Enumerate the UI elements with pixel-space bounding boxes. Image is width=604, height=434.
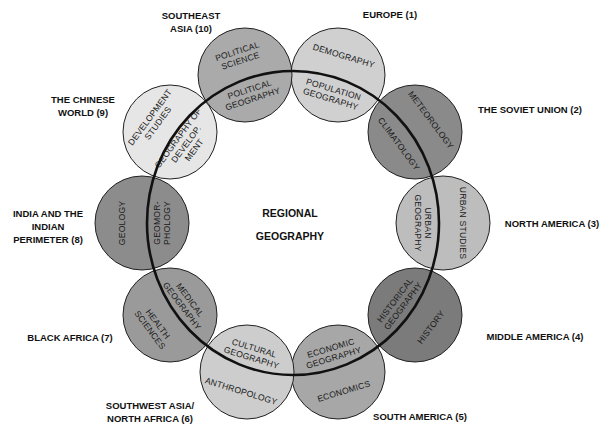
outer-discipline-north-america-line: URBAN STUDIES bbox=[458, 187, 468, 259]
region-label-line: NORTH AFRICA (6) bbox=[107, 413, 193, 424]
region-label-black-africa: BLACK AFRICA (7) bbox=[27, 332, 112, 343]
circle-southeast-asia bbox=[198, 28, 292, 122]
region-label-line: BLACK AFRICA (7) bbox=[27, 332, 112, 343]
region-label-middle-america: MIDDLE AMERICA (4) bbox=[487, 331, 584, 342]
region-label-line: INDIAN bbox=[32, 221, 65, 232]
outer-discipline-india-line: GEOLOGY bbox=[117, 201, 127, 245]
outer-discipline-india: GEOLOGY bbox=[117, 201, 127, 245]
region-label-line: SOUTHWEST ASIA/ bbox=[106, 400, 195, 411]
center-label: REGIONAL GEOGRAPHY bbox=[256, 207, 324, 242]
region-label-line: ASIA (10) bbox=[170, 23, 212, 34]
inner-discipline-north-america-line: URBAN bbox=[423, 207, 433, 238]
region-label-line: SOUTH AMERICA (5) bbox=[373, 411, 467, 422]
region-label-north-america: NORTH AMERICA (3) bbox=[505, 218, 599, 229]
region-label-line: EUROPE (1) bbox=[363, 9, 417, 20]
region-label-soviet: THE SOVIET UNION (2) bbox=[478, 104, 582, 115]
region-label-line: SOUTHEAST bbox=[162, 10, 221, 21]
region-label-europe: EUROPE (1) bbox=[363, 9, 417, 20]
circle-south-america bbox=[291, 325, 385, 419]
region-label-line: WORLD (9) bbox=[58, 107, 108, 118]
inner-discipline-india-line: PHOLOGY bbox=[162, 201, 172, 245]
inner-discipline-india-line: GEOMOR- bbox=[152, 201, 162, 244]
region-label-india: INDIA AND THEINDIANPERIMETER (8) bbox=[13, 208, 83, 245]
circle-swasia bbox=[200, 325, 294, 419]
region-label-line: INDIA AND THE bbox=[13, 208, 83, 219]
center-label-line2: GEOGRAPHY bbox=[256, 230, 324, 242]
inner-discipline-north-america-line: GEOGRAPHY bbox=[413, 194, 423, 251]
region-label-south-america: SOUTH AMERICA (5) bbox=[373, 411, 467, 422]
circle-europe bbox=[291, 28, 385, 122]
circle-india bbox=[95, 176, 189, 270]
region-label-line: THE CHINESE bbox=[51, 94, 115, 105]
circle-north-america bbox=[396, 176, 490, 270]
region-label-line: NORTH AMERICA (3) bbox=[505, 218, 599, 229]
region-label-chinese: THE CHINESEWORLD (9) bbox=[51, 94, 115, 118]
region-label-line: PERIMETER (8) bbox=[13, 234, 83, 245]
outer-discipline-north-america: URBAN STUDIES bbox=[458, 187, 468, 259]
region-label-line: MIDDLE AMERICA (4) bbox=[487, 331, 584, 342]
region-label-swasia: SOUTHWEST ASIA/NORTH AFRICA (6) bbox=[106, 400, 195, 424]
center-label-line1: REGIONAL bbox=[262, 207, 318, 219]
region-label-line: THE SOVIET UNION (2) bbox=[478, 104, 582, 115]
region-label-southeast-asia: SOUTHEASTASIA (10) bbox=[162, 10, 221, 34]
inner-discipline-india: GEOMOR-PHOLOGY bbox=[152, 201, 172, 245]
regional-geography-diagram: DEMOGRAPHYPOPULATIONGEOGRAPHYMETEOROLOGY… bbox=[0, 0, 604, 434]
